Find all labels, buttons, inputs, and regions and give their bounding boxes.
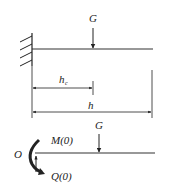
dimension-h-label: h <box>88 99 94 111</box>
beam-diagram: G h c h G M(0) O Q(0) <box>0 0 170 192</box>
origin-label: O <box>14 148 22 160</box>
dimension-hc: h c <box>33 73 92 88</box>
shear-label: Q(0) <box>51 170 72 183</box>
dimension-h: h <box>33 99 151 112</box>
load-label-bottom: G <box>95 119 103 131</box>
fixed-wall-support <box>20 33 32 66</box>
load-label-top: G <box>89 12 97 24</box>
dimension-hc-subscript: c <box>65 80 68 86</box>
moment-label: M(0) <box>50 134 73 147</box>
moment-arrow-icon <box>30 140 45 175</box>
